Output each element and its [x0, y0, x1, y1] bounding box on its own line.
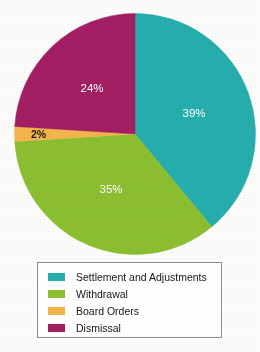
legend-item-board-orders[interactable]: Board Orders	[38, 303, 221, 319]
legend-item-withdrawal[interactable]: Withdrawal	[38, 286, 221, 302]
legend-swatch-icon	[48, 290, 65, 298]
pie-slice-label: 35%	[100, 183, 123, 195]
legend-box: Settlement and Adjustments Withdrawal Bo…	[37, 262, 222, 338]
legend-item-settlement-and-adjustments[interactable]: Settlement and Adjustments	[38, 269, 221, 285]
legend-item-dismissal[interactable]: Dismissal	[38, 320, 221, 336]
legend-swatch-icon	[48, 324, 65, 332]
pie-slice[interactable]	[15, 14, 135, 135]
pie-slice-label: 24%	[81, 82, 104, 94]
legend-swatch-icon	[48, 307, 65, 315]
pie-chart-svg: 39%35%2%24%	[14, 13, 256, 255]
pie-chart: 39%35%2%24%	[14, 13, 256, 255]
legend-swatch-icon	[48, 273, 65, 281]
legend-item-label: Withdrawal	[76, 288, 128, 300]
pie-slice-group	[15, 14, 256, 255]
chart-page: 39%35%2%24% Settlement and Adjustments W…	[0, 0, 260, 352]
legend-item-label: Dismissal	[76, 322, 121, 334]
legend-item-label: Board Orders	[76, 305, 139, 317]
pie-slice-label: 39%	[182, 107, 205, 119]
legend-item-label: Settlement and Adjustments	[76, 271, 207, 283]
pie-slice-label: 2%	[31, 128, 47, 140]
